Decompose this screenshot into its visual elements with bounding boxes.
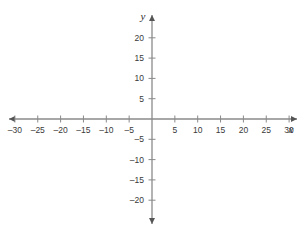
y-tick-label: 5: [139, 94, 144, 104]
y-tick-label: 20: [135, 33, 145, 43]
coordinate-plane-figure: –30–25–20–15–10–551015202530 2015105–5–1…: [0, 0, 304, 235]
y-tick-label: 10: [135, 73, 145, 83]
x-tick-label: 5: [172, 125, 177, 135]
x-tick-label: –15: [76, 125, 90, 135]
x-tick-label: –20: [54, 125, 68, 135]
y-tick-label: –5: [135, 134, 145, 144]
y-tick-label: –15: [130, 175, 144, 185]
x-tick-label: 15: [216, 125, 226, 135]
x-tick-label: –25: [31, 125, 45, 135]
y-tick-label: –20: [130, 195, 144, 205]
y-tick-label: –10: [130, 155, 144, 165]
x-tick-label: –5: [124, 125, 134, 135]
y-axis-label: y: [140, 10, 146, 22]
x-tick-label: 20: [239, 125, 249, 135]
coordinate-plane-svg: –30–25–20–15–10–551015202530 2015105–5–1…: [0, 0, 304, 235]
x-tick-label: 25: [262, 125, 272, 135]
x-tick-label: –30: [8, 125, 22, 135]
x-axis-tick-labels: –30–25–20–15–10–551015202530: [8, 125, 294, 135]
y-tick-label: 15: [135, 53, 145, 63]
x-axis-label: x: [288, 123, 294, 135]
x-tick-label: 10: [193, 125, 203, 135]
x-tick-label: –10: [99, 125, 113, 135]
